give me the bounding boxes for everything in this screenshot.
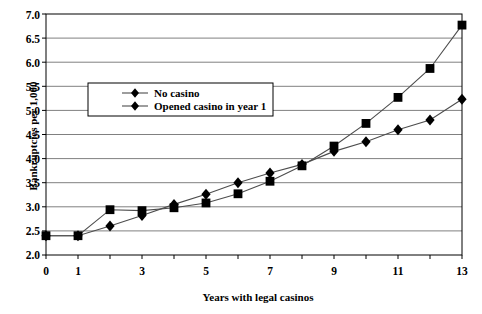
legend-item-label: Opened casino in year 1: [154, 100, 266, 112]
x-axis-ticks: [46, 255, 462, 259]
y-axis-ticks: [42, 14, 46, 255]
legend: No casinoOpened casino in year 1: [88, 83, 273, 116]
bankruptcy-line-chart: Bankruptcies per 1,000 Years with legal …: [0, 0, 482, 314]
series-markers: [41, 21, 466, 242]
legend-item-label: No casino: [154, 87, 200, 99]
plot-svg: No casinoOpened casino in year 1: [0, 0, 482, 314]
gridlines: [46, 38, 462, 231]
